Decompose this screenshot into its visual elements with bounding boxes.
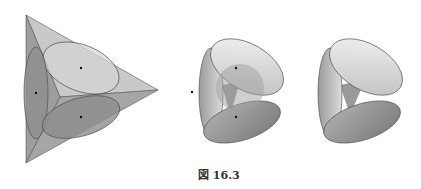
figure-caption: 図 16.3 <box>198 166 240 182</box>
cones-with-sphere-panel <box>191 27 293 151</box>
cones-panel <box>318 27 412 151</box>
tetrahedron-panel <box>24 15 158 163</box>
figure-canvas <box>0 0 421 189</box>
